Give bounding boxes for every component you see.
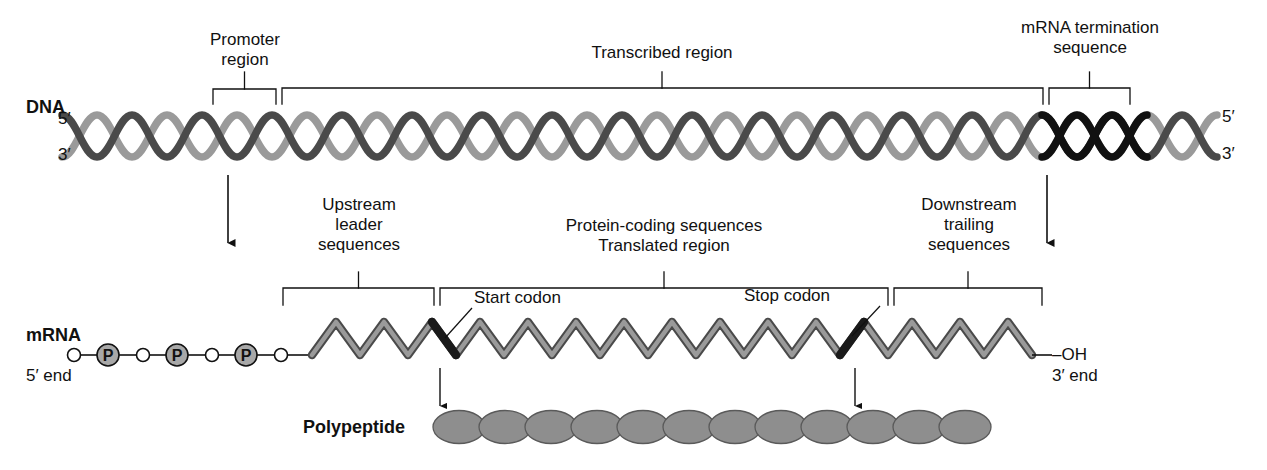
sugar-circle bbox=[206, 349, 219, 362]
upstream-leader-label-line2: leader bbox=[335, 215, 382, 234]
mrna-strand bbox=[312, 322, 1052, 355]
dna-left-3prime-label: 3′ bbox=[58, 146, 71, 164]
polypeptide-residue bbox=[617, 411, 669, 444]
polypeptide-row-label: Polypeptide bbox=[303, 417, 405, 437]
polypeptide-residue bbox=[663, 411, 715, 444]
dna-double-helix bbox=[62, 115, 1217, 157]
dna-right-5prime-label: 5′ bbox=[1222, 108, 1235, 126]
polypeptide-residue bbox=[571, 411, 623, 444]
dna-termination-segment bbox=[1042, 115, 1147, 157]
polypeptide-residue bbox=[433, 411, 485, 444]
downstream-trailing-label-line3: sequences bbox=[928, 235, 1010, 254]
dna-right-3prime-label: 3′ bbox=[1222, 145, 1235, 163]
downstream-trailing-sequences-label: Downstream trailing sequences bbox=[895, 195, 1043, 255]
dna-left-5prime-label: 5′ bbox=[58, 110, 71, 128]
upstream-leader-label-line1: Upstream bbox=[322, 195, 396, 214]
polypeptide-residue bbox=[755, 411, 807, 444]
translation-arrows bbox=[440, 368, 855, 406]
gene-expression-diagram: Promoter region Transcribed region mRNA … bbox=[0, 0, 1267, 470]
stop-codon-label: Stop codon bbox=[744, 286, 830, 306]
mrna-hydroxyl-label: –OH bbox=[1052, 345, 1087, 365]
dna-strand-dark bbox=[62, 115, 1217, 157]
promoter-region-bracket bbox=[213, 72, 276, 104]
sugar-circle bbox=[68, 349, 81, 362]
mrna-bracket-group bbox=[283, 272, 1042, 305]
polypeptide-residue bbox=[847, 411, 899, 444]
upstream-leader-sequences-label: Upstream leader sequences bbox=[288, 195, 430, 255]
upstream-leader-label-line3: sequences bbox=[318, 235, 400, 254]
protein-coding-label-line1: Protein-coding sequences bbox=[566, 216, 763, 235]
polypeptide-residue bbox=[479, 411, 531, 444]
polypeptide-residue bbox=[939, 411, 991, 444]
mrna-termination-sequence-label: mRNA termination sequence bbox=[975, 18, 1205, 58]
dna-bracket-group bbox=[213, 72, 1130, 104]
phosphate-label: P bbox=[170, 346, 184, 366]
phosphate-label: P bbox=[239, 346, 253, 366]
promoter-region-label-line2: region bbox=[221, 50, 268, 69]
promoter-region-label-line1: Promoter bbox=[210, 30, 280, 49]
downstream-trailing-label-line1: Downstream bbox=[921, 195, 1016, 214]
protein-coding-region-label: Protein-coding sequences Translated regi… bbox=[529, 216, 799, 256]
phosphate-label: P bbox=[101, 346, 115, 366]
upstream-leader-sequences-bracket bbox=[283, 272, 434, 305]
polypeptide-chain bbox=[433, 411, 991, 444]
sugar-circle bbox=[137, 349, 150, 362]
mrna-termination-label-line1: mRNA termination bbox=[1021, 18, 1159, 37]
polypeptide-residue bbox=[801, 411, 853, 444]
start-codon-segment bbox=[432, 322, 456, 355]
mrna-row-label: mRNA bbox=[26, 325, 81, 345]
promoter-region-label: Promoter region bbox=[180, 30, 310, 70]
transcribed-region-label-line1: Transcribed region bbox=[591, 43, 732, 62]
translated-region-label-line2: Translated region bbox=[598, 236, 730, 255]
downstream-trailing-label-line2: trailing bbox=[944, 215, 994, 234]
mrna-termination-sequence-bracket bbox=[1049, 72, 1130, 104]
mrna-three-prime-end-label: 3′ end bbox=[1052, 366, 1098, 386]
mrna-termination-label-line2: sequence bbox=[1053, 38, 1127, 57]
polypeptide-residue bbox=[709, 411, 761, 444]
polypeptide-residue bbox=[525, 411, 577, 444]
mrna-five-prime-end-label: 5′ end bbox=[26, 366, 72, 386]
sugar-circle bbox=[275, 349, 288, 362]
polypeptide-residue bbox=[893, 411, 945, 444]
start-codon-label: Start codon bbox=[474, 288, 561, 308]
transcribed-region-label: Transcribed region bbox=[567, 43, 757, 63]
downstream-trailing-sequences-bracket bbox=[894, 272, 1042, 305]
transcribed-region-bracket bbox=[282, 72, 1043, 104]
